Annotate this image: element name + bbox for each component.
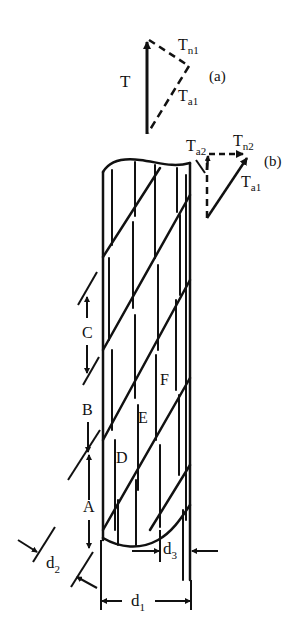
segment-B-label: B xyxy=(82,401,93,418)
label-Ta1-b: Ta1 xyxy=(241,173,261,193)
ext-slant-3 xyxy=(68,430,100,480)
segment-A-label: A xyxy=(83,498,95,515)
ext-slant-2 xyxy=(83,357,99,385)
label-b: (b) xyxy=(264,153,282,170)
label-d2: d2 xyxy=(46,553,60,575)
region-E-label: E xyxy=(138,409,148,426)
region-D-label: D xyxy=(116,449,128,466)
cylinder xyxy=(103,159,190,580)
label-T: T xyxy=(120,72,131,91)
cylinder-bottom-edge xyxy=(103,505,190,547)
label-Ta2: Ta2 xyxy=(186,137,206,157)
label-Tn2: Tn2 xyxy=(233,132,254,152)
label-Tn1: Tn1 xyxy=(178,36,199,56)
region-F-label: F xyxy=(160,371,169,388)
diagram-svg: T Tn1 Ta1 (a) Ta2 Tn2 Ta1 (b) xyxy=(0,0,298,642)
segment-C-label: C xyxy=(82,324,93,341)
d2-ext-2 xyxy=(71,552,93,587)
label-a: (a) xyxy=(209,68,226,85)
Ta2-leader-line xyxy=(196,160,205,173)
d2-arrow-1 xyxy=(18,540,37,552)
d2-arrow-2 xyxy=(77,577,97,588)
yarn-helix-diagram: T Tn1 Ta1 (a) Ta2 Tn2 Ta1 (b) xyxy=(0,0,298,642)
d2-dimension xyxy=(18,527,97,588)
label-d1: d1 xyxy=(131,591,145,613)
vector-diagram-b xyxy=(196,154,247,218)
label-Ta1-a: Ta1 xyxy=(178,87,198,107)
label-d3: d3 xyxy=(163,539,178,561)
Ta2-vector-arrow xyxy=(207,156,208,170)
